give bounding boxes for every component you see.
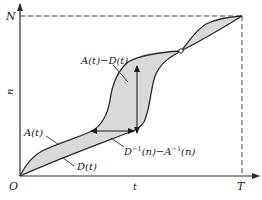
leader-departures [62,157,74,166]
intersection-point [179,49,183,53]
leader-arrivals [46,136,58,144]
label-hd-end: (n) [181,146,195,157]
shaded-region-queue [20,51,181,176]
label-hd-D: D [123,146,132,157]
label-hd-sup2: −1 [171,145,181,153]
leader-horizontal-difference [111,138,124,147]
label-arrivals: A(t) [23,127,43,138]
label-hd-sup1: −1 [132,145,142,153]
label-t-axis: t [133,181,138,192]
label-N: N [5,10,16,23]
queueing-diagram: N n O t T A(t) D(t) A(t)−D(t) D−1(n)−A−1… [0,0,262,200]
label-hd-mid: (n)−A [142,146,172,157]
label-T: T [237,180,246,193]
label-horizontal-difference: D−1(n)−A−1(n) [123,145,195,157]
label-origin: O [9,180,18,193]
label-vertical-difference: A(t)−D(t) [80,55,128,66]
label-departures: D(t) [76,161,97,172]
label-n-axis: n [4,89,15,95]
